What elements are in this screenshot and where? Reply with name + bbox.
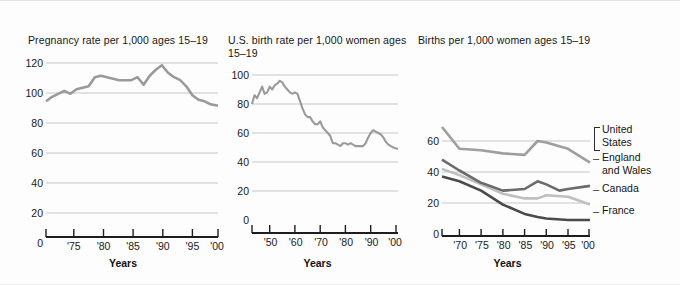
x-axis: '70 '75 '80 '85 '90 '95 '00 — [442, 229, 595, 251]
plot-area-pregnancy-rate: 120 100 80 60 40 20 0 — [28, 53, 218, 243]
x-tick-label: '75 — [475, 239, 489, 251]
y-tick-label: 60 — [237, 127, 249, 139]
y-tick-label: 20 — [427, 197, 439, 209]
y-tick-label: 40 — [237, 156, 249, 168]
x-tick-label: '80 — [497, 239, 511, 251]
series-line-england-and-wales — [442, 160, 590, 191]
x-tick-label: '70 — [314, 236, 328, 248]
series-line-france — [442, 177, 590, 220]
plot-svg: 60 40 20 0 — [420, 119, 590, 249]
x-tick-label: '85 — [126, 240, 140, 252]
x-tick-label: '75 — [67, 240, 81, 252]
panel-title: Pregnancy rate per 1,000 ages 15–19 — [28, 34, 228, 47]
legend-dash-england-and-wales: – — [593, 152, 599, 164]
x-tick-label: '80 — [97, 240, 111, 252]
y-tick-label: 40 — [427, 166, 439, 178]
legend-dash-canada: – — [593, 183, 599, 195]
plot-area-us-birth-rate: 100 80 60 40 20 0 — [230, 65, 398, 243]
legend-label-england-and-wales: England and Wales — [602, 151, 651, 176]
y-tick-label: 0 — [433, 228, 439, 240]
y-tick-label: 100 — [231, 69, 249, 81]
chart-panel-us-birth-rate: U.S. birth rate per 1,000 women ages 15–… — [226, 1, 410, 285]
x-tick-label: '80 — [339, 236, 353, 248]
legend-label-france: France — [602, 204, 635, 217]
y-tick-labels: 100 80 60 40 20 0 — [231, 69, 249, 226]
series-line-united-states — [442, 127, 590, 163]
x-axis-caption: Years — [230, 257, 405, 269]
x-tick-label: '00 — [388, 236, 402, 248]
x-tick-label: '90 — [156, 240, 170, 252]
x-tick-label: '90 — [540, 239, 554, 251]
x-tick-label: '90 — [365, 236, 379, 248]
y-tick-label: 120 — [25, 57, 43, 69]
x-tick-label: '00 — [581, 239, 595, 251]
y-tick-label: 20 — [31, 207, 43, 219]
x-axis: '50 '60 '70 '80 '90 '00 — [252, 225, 402, 248]
x-axis-caption: Years — [420, 257, 595, 269]
legend-label-united-states: United States — [602, 123, 632, 148]
x-tick-label: '95 — [562, 239, 576, 251]
series-line-us-birth-rate — [252, 81, 398, 149]
y-tick-label: 80 — [237, 98, 249, 110]
x-tick-label: '60 — [289, 236, 303, 248]
y-tick-label: 100 — [25, 87, 43, 99]
chart-panel-pregnancy-rate: Pregnancy rate per 1,000 ages 15–19 120 … — [0, 1, 226, 285]
legend-label-canada: Canada — [602, 182, 639, 195]
y-tick-label: 40 — [31, 177, 43, 189]
figure-canvas: Pregnancy rate per 1,000 ages 15–19 120 … — [0, 0, 680, 285]
y-tick-labels: 60 40 20 0 — [427, 135, 439, 240]
x-tick-label: '00 — [210, 240, 224, 252]
y-tick-label: 80 — [31, 117, 43, 129]
panel-title: Births per 1,000 women ages 15–19 — [418, 34, 668, 47]
x-tick-label: '70 — [453, 239, 467, 251]
legend-dash-france: – — [593, 205, 599, 217]
x-tick-label: '50 — [264, 236, 278, 248]
y-tick-label: 60 — [31, 147, 43, 159]
y-tick-label: 60 — [427, 135, 439, 147]
y-tick-label: 0 — [37, 237, 43, 249]
y-tick-labels: 120 100 80 60 40 20 0 — [25, 57, 43, 249]
y-tick-label: 0 — [243, 214, 249, 226]
plot-svg: 100 80 60 40 20 0 — [230, 65, 398, 243]
series-line-us-pregnancy — [46, 65, 218, 106]
plot-svg: 120 100 80 60 40 20 0 — [28, 53, 218, 243]
plot-area-international-births: 60 40 20 0 — [420, 119, 590, 249]
panel-title: U.S. birth rate per 1,000 women ages 15–… — [228, 34, 408, 60]
chart-panel-international-births: Births per 1,000 women ages 15–19 60 40 … — [410, 1, 680, 285]
gridlines — [46, 63, 218, 213]
x-tick-label: '95 — [186, 240, 200, 252]
x-axis: '75 '80 '85 '90 '95 '00 — [46, 229, 224, 252]
legend-bracket-united-states — [594, 127, 600, 151]
y-tick-label: 20 — [237, 185, 249, 197]
x-tick-label: '85 — [519, 239, 533, 251]
x-axis-caption: Years — [28, 257, 218, 269]
